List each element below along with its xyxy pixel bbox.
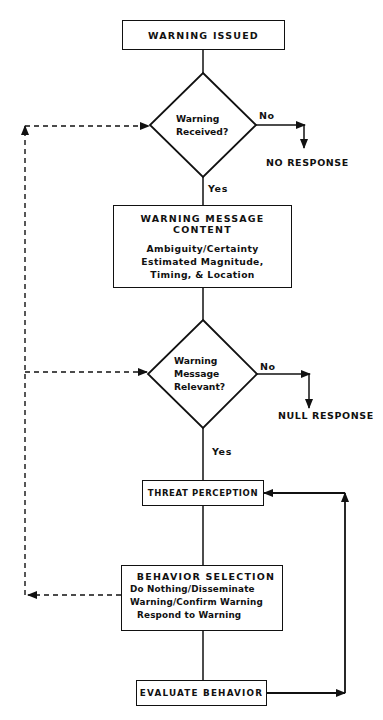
threat-perception-node: THREAT PERCEPTION: [142, 480, 264, 506]
decision-line: Warning: [176, 112, 246, 125]
message-content-node: WARNING MESSAGE CONTENT Ambiguity/Certai…: [113, 205, 292, 288]
behavior-selection-line: Respond to Warning: [130, 609, 241, 622]
decision-line: Warning: [174, 354, 244, 367]
null-response-label: NULL RESPONSE: [278, 410, 374, 421]
relevant-yes-label: Yes: [212, 446, 232, 457]
behavior-selection-title: BEHAVIOR SELECTION: [137, 571, 275, 582]
evaluate-behavior-title: EVALUATE BEHAVIOR: [140, 688, 263, 698]
message-content-title: WARNING MESSAGE CONTENT: [114, 213, 291, 235]
evaluate-behavior-node: EVALUATE BEHAVIOR: [136, 680, 267, 706]
behavior-selection-node: BEHAVIOR SELECTION Do Nothing/Disseminat…: [121, 565, 283, 631]
decision-line: Relevant?: [174, 380, 244, 393]
relevant-no-label: No: [260, 361, 276, 372]
message-relevant-decision: Warning Message Relevant?: [174, 354, 244, 393]
received-no-label: No: [259, 110, 275, 121]
warning-issued-node: WARNING ISSUED: [122, 20, 285, 50]
behavior-selection-line: Do Nothing/Disseminate: [130, 583, 255, 596]
warning-issued-title: WARNING ISSUED: [148, 30, 259, 41]
message-content-line: Estimated Magnitude,: [141, 255, 263, 268]
received-yes-label: Yes: [208, 183, 228, 194]
behavior-selection-line: Warning/Confirm Warning: [130, 596, 263, 609]
warning-received-decision: Warning Received?: [176, 112, 246, 138]
no-response-label: NO RESPONSE: [266, 157, 349, 168]
decision-line: Received?: [176, 125, 246, 138]
message-content-line: Ambiguity/Certainty: [146, 242, 258, 255]
decision-line: Message: [174, 367, 244, 380]
threat-perception-title: THREAT PERCEPTION: [148, 488, 258, 498]
message-content-line: Timing, & Location: [150, 268, 255, 281]
